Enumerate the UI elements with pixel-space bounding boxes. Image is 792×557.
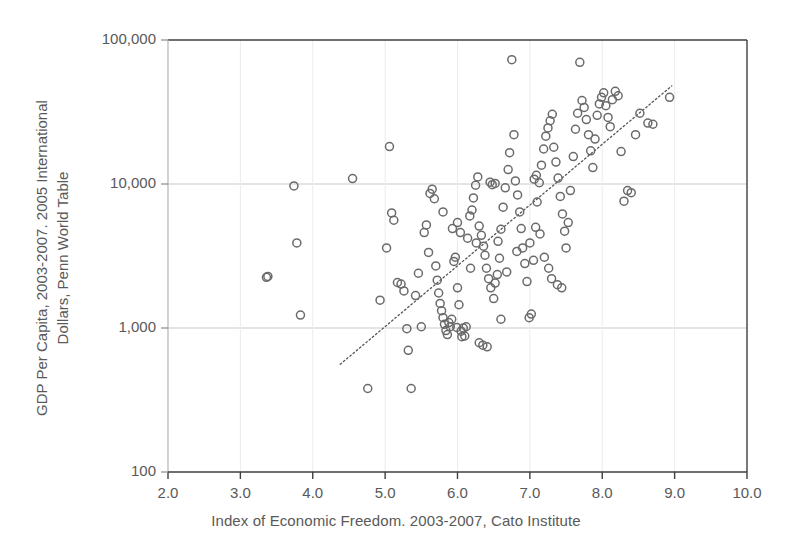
y-tick-label: 100 [58,462,156,479]
x-tick-label: 7.0 [490,484,570,501]
y-tick-label: 10,000 [58,174,156,191]
y-tick-label: 1,000 [58,318,156,335]
x-tick-label: 3.0 [200,484,280,501]
y-tick-label: 100,000 [58,30,156,47]
x-tick-label: 5.0 [345,484,425,501]
trendline [340,86,671,364]
x-tick-label: 8.0 [562,484,642,501]
data-points [262,56,673,393]
x-axis-title: Index of Economic Freedom. 2003-2007, Ca… [0,512,792,529]
chart-figure: GDP Per Capita, 2003-2007. 2005 Internat… [0,0,792,557]
x-tick-label: 2.0 [128,484,208,501]
x-tick-label: 10.0 [707,484,787,501]
x-tick-label: 6.0 [418,484,498,501]
x-tick-label: 9.0 [635,484,715,501]
grid-layer [168,40,747,472]
tick-marks [161,40,747,479]
x-tick-label: 4.0 [273,484,353,501]
